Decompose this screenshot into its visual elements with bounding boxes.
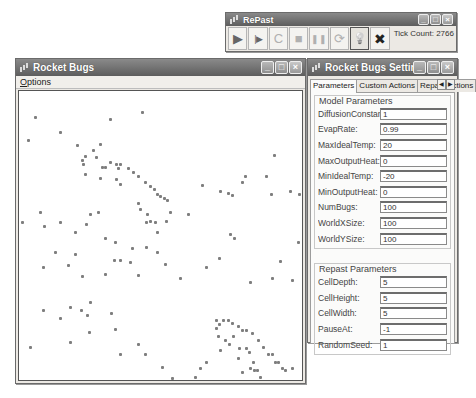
bug-agent [54,251,57,254]
bug-agent [81,275,84,278]
max-ideal-temp-field[interactable] [380,139,447,151]
bug-agent [115,178,118,181]
bug-agent [237,325,240,328]
window-title: RePast [243,15,418,25]
bug-agent [99,177,102,180]
bug-agent [251,332,254,335]
step-icon: |▶ [254,34,261,44]
setup-button[interactable]: C [269,27,288,50]
tab-parameters[interactable]: Parameters [310,79,357,93]
repast-titlebar[interactable]: RePast _ □ × [226,13,456,26]
pause-button[interactable]: ❚❚ [309,27,328,50]
minimize-button[interactable]: _ [418,14,429,25]
bug-agent [119,259,122,262]
tab-scroll-right-icon[interactable]: ▶ [446,79,455,90]
tab-scroll-left-icon[interactable]: ◀ [437,79,446,90]
bug-agent [86,314,89,317]
bug-agent [231,194,234,197]
parameter-label: MinIdealTemp: [318,171,380,181]
repast-window: RePast _ □ × ▶|▶C■❚❚⟳💡✖Tick Count: 2766 [225,12,457,52]
app-icon [229,15,239,25]
close-button[interactable]: × [441,61,454,74]
bug-agent [149,185,152,188]
stop-button[interactable]: ■ [289,27,308,50]
exit-button[interactable]: ✖ [370,27,389,50]
bug-agent [156,231,159,234]
world-xsize-field[interactable] [380,217,447,229]
minimize-button[interactable]: _ [261,61,274,74]
min-ideal-temp-field[interactable] [380,170,447,182]
reset-button[interactable]: ⟳ [330,27,349,50]
bug-agent [145,221,148,224]
bug-agent [271,353,274,356]
parameter-label: NumBugs: [318,202,380,212]
settings-titlebar[interactable]: Rocket Bugs Settings _ □ × [308,59,457,76]
tab-strip: Parameters Custom Actions Repast Actions… [310,79,455,92]
bug-agent [218,323,221,326]
parameter-row: WorldYSize: [318,231,447,247]
bug-agent [217,335,220,338]
bug-agent [298,193,301,196]
bug-agent [74,253,77,256]
min-output-heat-field[interactable] [380,186,447,198]
bug-agent [215,327,218,330]
cell-width-field[interactable] [380,307,447,319]
bug-agent [42,266,45,269]
bug-agent [110,312,113,315]
pause-at-field[interactable] [380,323,447,335]
tab-custom-actions[interactable]: Custom Actions [356,79,418,92]
bug-agent [109,118,112,121]
close-button[interactable]: × [289,61,302,74]
parameter-row: CellWidth: [318,306,447,322]
bug-agent [257,339,260,342]
maximize-button[interactable]: □ [427,61,440,74]
bug-agent [21,221,24,224]
bug-agent [219,190,222,193]
bug-agent [259,376,262,379]
bug-agent [59,221,62,224]
bug-agent [245,347,248,350]
num-bugs-field[interactable] [380,201,447,213]
app-icon [311,63,321,73]
settings-lightbulb-button[interactable]: 💡 [350,27,369,50]
cell-depth-field[interactable] [380,276,447,288]
bug-agent [137,175,140,178]
bug-agent [114,241,117,244]
random-seed-field[interactable] [380,339,447,351]
maximize-button[interactable]: □ [275,61,288,74]
menubar: Options [16,76,305,89]
close-button[interactable]: × [442,14,453,25]
bug-agent [171,377,174,380]
bug-agent [277,361,280,364]
bug-agent [218,257,221,260]
bug-agent [113,259,116,262]
menu-options[interactable]: Options [20,77,51,87]
bug-agent [244,175,247,178]
step-button[interactable]: |▶ [248,27,267,50]
maximize-button[interactable]: □ [430,14,441,25]
world-display-canvas[interactable] [18,90,303,381]
parameter-label: RandomSeed: [318,340,380,350]
bug-agent [81,159,84,162]
cell-height-field[interactable] [380,292,447,304]
tick-count: Tick Count: 2766 [394,27,454,50]
run-icon: ▶ [233,31,243,46]
rocket-bugs-titlebar[interactable]: Rocket Bugs _ □ × [16,59,305,76]
bug-agent [99,143,102,146]
parameter-row: EvapRate: [318,122,447,138]
run-button[interactable]: ▶ [228,27,247,50]
bug-agent [59,131,62,134]
minimize-button[interactable]: _ [413,61,426,74]
bug-agent [144,181,147,184]
setup-icon: C [274,31,283,46]
bug-agent [187,213,190,216]
evap-rate-field[interactable] [380,123,447,135]
max-output-heat-field[interactable] [380,155,447,167]
bug-agent [39,211,42,214]
bug-agent [201,184,204,187]
parameter-label: EvapRate: [318,124,380,134]
bug-agent [104,237,107,240]
bug-agent [34,116,37,119]
world-ysize-field[interactable] [380,233,447,245]
diffusion-constant-field[interactable] [380,108,447,120]
